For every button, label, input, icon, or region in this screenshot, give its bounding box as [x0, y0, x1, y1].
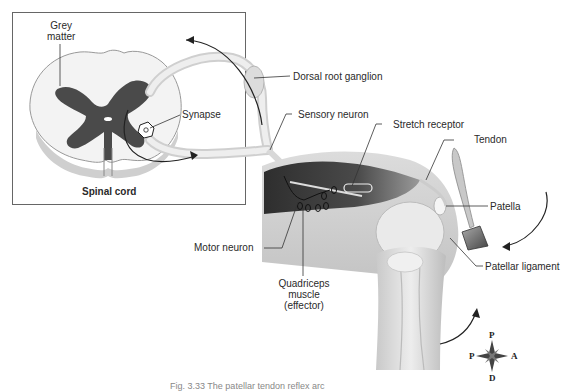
- label-sensory-neuron: Sensory neuron: [298, 109, 369, 120]
- label-grey-matter-line1: Grey: [47, 20, 75, 31]
- label-grey-matter-line2: matter: [47, 31, 75, 42]
- spinal-cord-section: [30, 50, 181, 178]
- label-stretch-receptor: Stretch receptor: [393, 119, 464, 130]
- label-dorsal-root-ganglion: Dorsal root ganglion: [293, 71, 383, 82]
- compass-rose: [476, 340, 508, 372]
- label-patellar-ligament: Patellar ligament: [485, 261, 559, 272]
- compass-label-bottom: D: [489, 373, 496, 383]
- compass-label-top: P: [489, 330, 495, 340]
- label-motor-neuron: Motor neuron: [194, 242, 253, 253]
- figure-caption: Fig. 3.33 The patellar tendon reflex arc: [170, 381, 324, 391]
- compass-label-right: A: [511, 351, 518, 361]
- compass-label-left: P: [469, 351, 475, 361]
- inset-title-spinal-cord: Spinal cord: [82, 186, 136, 197]
- label-synapse: Synapse: [182, 109, 221, 120]
- label-quadriceps-muscle: Quadriceps muscle (effector): [276, 278, 332, 311]
- label-quadriceps-line2: muscle: [276, 289, 332, 300]
- leg-kick-arrow: [440, 312, 476, 344]
- label-quadriceps-line1: Quadriceps: [276, 278, 332, 289]
- label-quadriceps-line3: (effector): [276, 300, 332, 311]
- label-tendon: Tendon: [474, 134, 507, 145]
- label-patella: Patella: [490, 201, 521, 212]
- label-grey-matter: Grey matter: [47, 20, 75, 42]
